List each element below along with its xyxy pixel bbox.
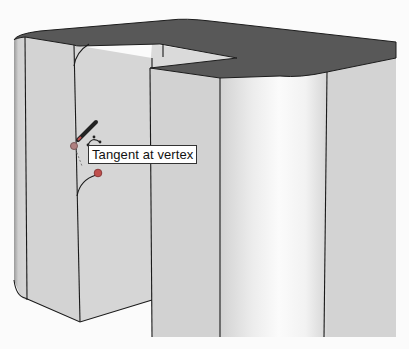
modeling-viewport[interactable]: Tangent at vertex bbox=[0, 0, 409, 349]
inference-tooltip: Tangent at vertex bbox=[88, 145, 197, 164]
right-block[interactable] bbox=[150, 58, 396, 337]
vertex-point-end[interactable] bbox=[94, 169, 102, 177]
vertex-point-start[interactable] bbox=[71, 143, 78, 150]
